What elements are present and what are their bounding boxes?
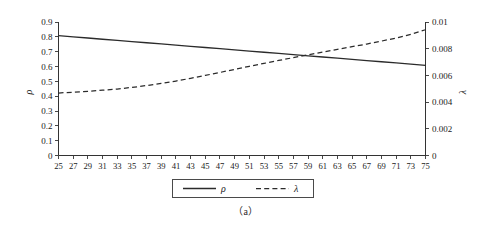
y-tick-label: 0.1 — [41, 136, 52, 146]
x-tick-label: 25 — [54, 161, 63, 171]
x-tick-label: 55 — [274, 161, 283, 171]
x-tick-label: 73 — [407, 161, 416, 171]
y-tick-label: 0.7 — [41, 47, 53, 57]
y-tick-label: 0 — [48, 151, 53, 161]
right-axis-tick-labels: 00.0020.0040.0060.0080.01 — [432, 17, 453, 161]
left-axis-tick-labels: 00.10.20.30.40.50.60.70.80.9 — [41, 17, 53, 161]
right-axis-ticks — [426, 22, 430, 156]
y-axis-title-left: ρ — [23, 89, 34, 95]
x-tick-label: 67 — [362, 161, 371, 171]
x-tick-label: 59 — [304, 161, 313, 171]
x-tick-label: 37 — [142, 161, 151, 171]
legend-label-rho: ρ — [220, 183, 226, 194]
axes-group — [59, 22, 426, 156]
figure-container: 00.10.20.30.40.50.60.70.80.9 00.0020.004… — [0, 0, 492, 228]
series-line-rho — [59, 36, 426, 66]
x-tick-label: 41 — [172, 161, 181, 171]
left-axis-ticks — [55, 22, 59, 156]
y-tick-label: 0.6 — [41, 62, 53, 72]
x-tick-label: 71 — [392, 161, 401, 171]
y-tick-label: 0.4 — [41, 91, 53, 101]
x-tick-label: 53 — [260, 161, 269, 171]
y2-tick-label: 0.004 — [432, 97, 453, 107]
x-axis-ticks — [59, 156, 426, 160]
x-tick-label: 47 — [216, 161, 225, 171]
legend-label-lambda: λ — [293, 183, 299, 194]
y2-tick-label: 0.006 — [432, 71, 453, 81]
x-tick-label: 39 — [157, 161, 166, 171]
x-tick-label: 31 — [98, 161, 107, 171]
chart-canvas: 00.10.20.30.40.50.60.70.80.9 00.0020.004… — [0, 0, 492, 228]
y-tick-label: 0.2 — [41, 121, 52, 131]
x-tick-label: 63 — [333, 161, 342, 171]
x-tick-label: 43 — [186, 161, 195, 171]
y2-tick-label: 0 — [432, 151, 437, 161]
y-tick-label: 0.9 — [41, 17, 53, 27]
x-tick-label: 75 — [421, 161, 430, 171]
x-tick-label: 61 — [318, 161, 327, 171]
y-tick-label: 0.3 — [41, 106, 53, 116]
chart-legend[interactable]: ρ λ — [172, 180, 313, 198]
y-tick-label: 0.5 — [41, 77, 53, 87]
x-tick-label: 51 — [245, 161, 254, 171]
x-tick-label: 35 — [128, 161, 137, 171]
x-tick-label: 29 — [84, 161, 93, 171]
x-tick-label: 27 — [69, 161, 78, 171]
y2-tick-label: 0.008 — [432, 44, 453, 54]
figure-caption: （a） — [0, 203, 492, 218]
y-axis-title-right: λ — [457, 89, 468, 95]
x-tick-label: 57 — [289, 161, 298, 171]
x-tick-label: 45 — [201, 161, 210, 171]
x-tick-label: 69 — [377, 161, 386, 171]
x-tick-label: 65 — [348, 161, 357, 171]
x-tick-label: 49 — [230, 161, 239, 171]
y-tick-label: 0.8 — [41, 32, 53, 42]
x-tick-label: 33 — [113, 161, 122, 171]
data-series-group — [59, 30, 426, 93]
x-axis-tick-labels: 2527293133353739414345474951535557596163… — [54, 161, 430, 171]
y2-tick-label: 0.01 — [432, 17, 448, 27]
y2-tick-label: 0.002 — [432, 124, 452, 134]
